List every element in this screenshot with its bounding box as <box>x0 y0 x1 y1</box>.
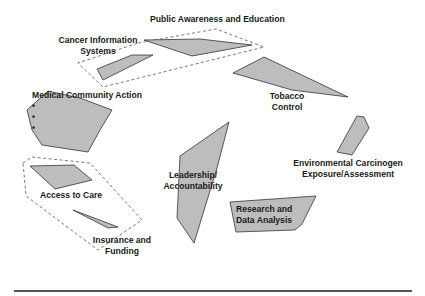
insurance-shape <box>73 210 118 228</box>
label-medical-community: Medical Community Action • • • <box>32 90 142 134</box>
label-cancer-info: Cancer Information Systems <box>55 35 141 57</box>
cancer-info-shape <box>97 55 153 80</box>
medical-item: • <box>32 123 142 134</box>
public-awareness-shape <box>144 39 252 56</box>
access-shape <box>30 165 92 189</box>
environmental-shape <box>337 116 369 155</box>
label-access: Access to Care <box>40 190 102 201</box>
medical-item: • <box>32 101 142 112</box>
label-research: Research and Data Analysis <box>236 204 292 226</box>
bottom-rule <box>14 290 412 292</box>
label-environmental: Environmental Carcinogen Exposure/Assess… <box>286 158 410 180</box>
label-leadership: Leadership/ Accountability <box>158 170 228 192</box>
medical-title: Medical Community Action <box>32 90 142 101</box>
medical-item: • <box>32 112 142 123</box>
label-tobacco: Tobacco Control <box>262 91 312 113</box>
label-insurance: Insurance and Funding <box>90 235 154 257</box>
label-public-awareness: Public Awareness and Education <box>150 14 285 25</box>
